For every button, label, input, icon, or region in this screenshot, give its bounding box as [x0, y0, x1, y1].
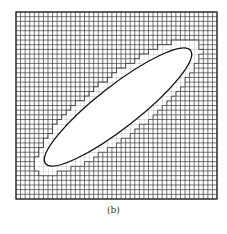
figure-caption: (b): [0, 205, 227, 215]
ellipse-outline: [33, 34, 204, 180]
grid-ellipse-diagram: [0, 0, 227, 234]
